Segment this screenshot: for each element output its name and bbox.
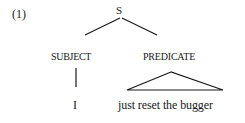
node-subject: SUBJECT (51, 52, 91, 62)
edge-s-subject (85, 18, 120, 35)
predicate-triangle (127, 72, 223, 90)
node-s: S (116, 5, 122, 16)
edge-s-predicate (122, 18, 157, 35)
leaf-predicate: just reset the bugger (118, 99, 213, 111)
leaf-subject: I (73, 99, 77, 111)
node-predicate: PREDICATE (143, 52, 195, 62)
